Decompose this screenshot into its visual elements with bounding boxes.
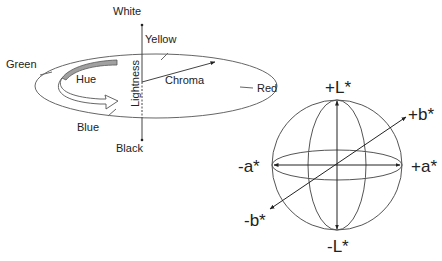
plus-b-label: +b* — [408, 105, 434, 124]
black-point — [141, 139, 144, 142]
lightness-label: Lightness — [129, 59, 141, 107]
minus-l-label: -L* — [327, 237, 349, 256]
plus-l-label: +L* — [325, 78, 351, 97]
blue-label: Blue — [77, 121, 99, 133]
blue-tick — [108, 109, 116, 116]
b-axis — [270, 117, 406, 209]
plus-a-label: +a* — [411, 157, 437, 176]
yellow-label: Yellow — [145, 33, 176, 45]
chroma-label: Chroma — [165, 74, 205, 86]
lab-sphere-diagram: +L* -L* -a* +a* +b* -b* — [238, 78, 437, 256]
white-label: White — [113, 5, 141, 17]
hue-label: Hue — [76, 73, 96, 85]
color-space-diagram: White Yellow Green Hue Lightness Chroma … — [0, 0, 442, 261]
red-label: Red — [257, 82, 277, 94]
minus-b-label: -b* — [244, 211, 266, 230]
hue-chroma-lightness-diagram: White Yellow Green Hue Lightness Chroma … — [6, 5, 277, 154]
green-label: Green — [6, 58, 37, 70]
minus-a-label: -a* — [238, 157, 260, 176]
red-tick — [240, 87, 253, 88]
white-point — [141, 24, 144, 27]
hue-circle — [35, 54, 277, 118]
black-label: Black — [116, 142, 143, 154]
